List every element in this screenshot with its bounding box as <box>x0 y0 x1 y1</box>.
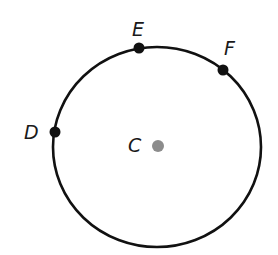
point-f <box>218 65 229 76</box>
label-d: D <box>24 121 39 143</box>
circle-diagram: E F D C <box>0 0 278 255</box>
point-e <box>134 43 145 54</box>
label-f: F <box>224 37 236 59</box>
point-c-center <box>152 140 164 152</box>
point-d <box>50 127 61 138</box>
label-e: E <box>132 18 144 40</box>
label-c: C <box>128 134 142 156</box>
